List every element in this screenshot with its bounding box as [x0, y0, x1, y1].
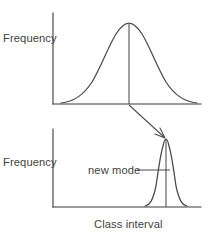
top-y-axis-label: Frequency	[3, 32, 57, 44]
bottom-y-axis-label: Frequency	[3, 156, 57, 168]
diagram-canvas: Frequency Frequency	[0, 0, 209, 234]
bottom-chart-group: Frequency new mode Class interval	[3, 129, 201, 230]
statistics-mode-diagram: Frequency Frequency	[0, 0, 209, 234]
connector-arrow-line	[129, 105, 164, 137]
top-chart-group: Frequency	[3, 13, 201, 104]
new-mode-annotation-label: new mode	[88, 164, 140, 176]
bottom-x-axis-label: Class interval	[94, 218, 163, 230]
mode-connector-group	[129, 105, 165, 138]
